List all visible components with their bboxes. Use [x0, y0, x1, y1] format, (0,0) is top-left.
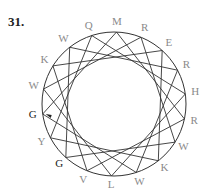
vertex-label: W [58, 32, 69, 44]
vertex-label: Q [85, 19, 93, 31]
vertex-label: E [166, 36, 173, 48]
vertex-label: G [29, 108, 37, 120]
vertex-label: W [134, 175, 145, 187]
vertex-label: R [191, 114, 199, 126]
vertex-label: R [141, 21, 149, 33]
vertex-label: K [40, 53, 48, 65]
vertex-label: W [29, 79, 40, 91]
vertex-label: G [55, 157, 63, 169]
vertex-label: R [183, 58, 191, 70]
chord-line [44, 37, 141, 89]
vertex-label: V [79, 173, 87, 185]
vertex-label: M [112, 15, 122, 27]
vertex-label: W [178, 140, 189, 152]
vertex-label: Y [38, 135, 46, 147]
vertex-label: H [191, 85, 199, 97]
vertex-label: L [108, 178, 115, 190]
star-polygon-diagram: MRERHRWKWLVGYGWKWQ [0, 0, 210, 196]
vertex-label: K [161, 161, 169, 173]
